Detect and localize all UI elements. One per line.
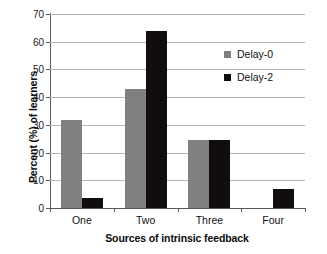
y-axis-tick-mark — [46, 153, 50, 154]
legend-swatch-icon — [224, 74, 231, 81]
gridline — [50, 125, 305, 126]
x-axis-tick-label-one: One — [72, 214, 92, 226]
gridline — [50, 180, 305, 181]
bar-two-delay-0 — [125, 89, 146, 208]
y-axis-tick-label: 40 — [33, 92, 44, 103]
legend-swatch-icon — [224, 51, 231, 58]
y-axis-tick-label: 30 — [33, 119, 44, 130]
x-axis-title: Sources of intrinsic feedback — [46, 232, 308, 244]
x-axis-tick-label-three: Three — [196, 214, 223, 226]
x-axis-tick-label-four: Four — [262, 214, 284, 226]
gridline — [50, 42, 305, 43]
y-axis-tick-label: 60 — [33, 36, 44, 47]
y-axis-tick-label: 70 — [33, 9, 44, 20]
bar-chart-figure: Percent (%) of learners 010203040506070 … — [0, 0, 327, 254]
plot-area: 010203040506070 OneTwoThreeFour — [50, 14, 305, 208]
y-axis-tick-mark — [46, 14, 50, 15]
bar-three-delay-2 — [209, 140, 230, 208]
x-axis-tick-mark — [178, 208, 179, 212]
x-axis-tick-label-two: Two — [136, 214, 155, 226]
gridline — [50, 97, 305, 98]
x-axis-tick-mark — [114, 208, 115, 212]
gridline — [50, 14, 305, 15]
bar-two-delay-2 — [146, 31, 167, 208]
x-axis-tick-mark — [50, 208, 51, 212]
y-axis-tick-mark — [46, 69, 50, 70]
bar-three-delay-0 — [188, 140, 209, 208]
y-axis-tick-label: 0 — [38, 203, 44, 214]
y-axis-tick-label: 50 — [33, 64, 44, 75]
legend-label: Delay-2 — [237, 71, 273, 83]
y-axis-tick-mark — [46, 180, 50, 181]
bar-four-delay-2 — [273, 189, 294, 208]
legend: Delay-0Delay-2 — [224, 48, 273, 83]
y-axis-tick-mark — [46, 42, 50, 43]
x-axis-tick-mark — [305, 208, 306, 212]
legend-item-delay-2[interactable]: Delay-2 — [224, 71, 273, 83]
bar-one-delay-0 — [61, 120, 82, 208]
x-axis-tick-mark — [241, 208, 242, 212]
y-axis-tick-label: 10 — [33, 175, 44, 186]
legend-item-delay-0[interactable]: Delay-0 — [224, 48, 273, 60]
bar-one-delay-2 — [82, 198, 103, 208]
y-axis-tick-label: 20 — [33, 147, 44, 158]
gridline — [50, 153, 305, 154]
y-axis-tick-mark — [46, 125, 50, 126]
y-axis-tick-mark — [46, 97, 50, 98]
legend-label: Delay-0 — [237, 48, 273, 60]
